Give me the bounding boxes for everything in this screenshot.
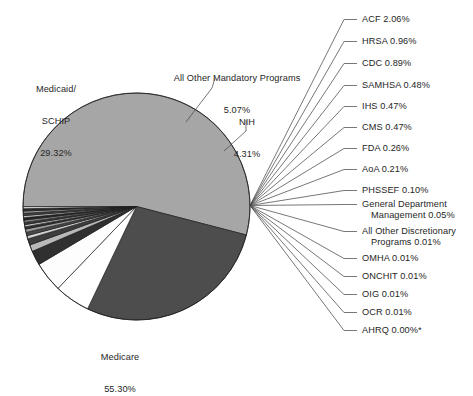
callout-label-acf: ACF 2.06% xyxy=(362,14,473,25)
leader-line-phssef xyxy=(250,191,357,206)
leader-line-all-other-discretionary-programs xyxy=(250,206,357,232)
callout-label-oig: OIG 0.01% xyxy=(362,289,473,300)
slice-label-medicaid-schip: Medicaid/ SCHIP 29.32% xyxy=(8,63,104,180)
callout-label-omha: OMHA 0.01% xyxy=(362,253,473,264)
callout-label-acf-line1: ACF 2.06% xyxy=(362,14,473,25)
callout-label-cms: CMS 0.47% xyxy=(362,122,473,133)
slice-label-nih-line2: 4.31% xyxy=(222,149,272,160)
callout-label-ocr-line1: OCR 0.01% xyxy=(362,307,473,318)
callout-label-phssef: PHSSEF 0.10% xyxy=(362,185,473,196)
callout-label-general-department-management: General DepartmentManagement 0.05% xyxy=(362,199,473,220)
callout-label-all-other-discretionary-programs: All Other DiscretionaryPrograms 0.01% xyxy=(362,226,473,247)
slice-label-medicare-line1: Medicare xyxy=(72,352,168,363)
leader-line-general-department-management xyxy=(250,205,357,206)
slice-label-medicaid-line1: Medicaid/ xyxy=(8,84,104,95)
slice-label-medicare-line2: 55.30% xyxy=(72,384,168,395)
callout-label-aoa: AoA 0.21% xyxy=(362,164,473,175)
callout-label-ihs-line1: IHS 0.47% xyxy=(362,101,473,112)
slice-label-nih: NIH 4.31% xyxy=(222,96,272,181)
callout-label-fda-line1: FDA 0.26% xyxy=(362,143,473,154)
slice-label-all-other-mandatory-line1: All Other Mandatory Programs xyxy=(153,73,321,84)
callout-label-phssef-line1: PHSSEF 0.10% xyxy=(362,185,473,196)
leader-line-ocr xyxy=(250,206,357,313)
callout-label-samhsa-line1: SAMHSA 0.48% xyxy=(362,80,473,91)
callout-label-cms-line1: CMS 0.47% xyxy=(362,122,473,133)
callout-label-ihs: IHS 0.47% xyxy=(362,101,473,112)
callout-label-onchit-line1: ONCHIT 0.01% xyxy=(362,271,473,282)
callout-label-all-other-discretionary-programs-line2: Programs 0.01% xyxy=(362,237,473,248)
callout-label-aoa-line1: AoA 0.21% xyxy=(362,164,473,175)
callout-label-hrsa: HRSA 0.96% xyxy=(362,36,473,47)
callout-label-ocr: OCR 0.01% xyxy=(362,307,473,318)
callout-label-hrsa-line1: HRSA 0.96% xyxy=(362,36,473,47)
leader-line-omha xyxy=(250,206,357,259)
slice-label-medicaid-line2: SCHIP xyxy=(8,116,104,127)
slice-label-nih-line1: NIH xyxy=(222,117,272,128)
callout-label-cdc-line1: CDC 0.89% xyxy=(362,58,473,69)
callout-label-onchit: ONCHIT 0.01% xyxy=(362,271,473,282)
callout-label-omha-line1: OMHA 0.01% xyxy=(362,253,473,264)
callout-label-all-other-discretionary-programs-line1: All Other Discretionary xyxy=(362,226,473,237)
callout-label-ahrq: AHRQ 0.00%* xyxy=(362,325,473,336)
callout-label-fda: FDA 0.26% xyxy=(362,143,473,154)
callout-label-general-department-management-line1: General Department xyxy=(362,199,473,210)
callout-label-cdc: CDC 0.89% xyxy=(362,58,473,69)
slice-label-medicare: Medicare 55.30% xyxy=(72,331,168,396)
leader-line-oig xyxy=(250,206,357,295)
slice-label-medicaid-line3: 29.32% xyxy=(8,148,104,159)
callout-label-oig-line1: OIG 0.01% xyxy=(362,289,473,300)
callout-label-general-department-management-line2: Management 0.05% xyxy=(362,210,473,221)
callout-label-ahrq-line1: AHRQ 0.00%* xyxy=(362,325,473,336)
callout-label-samhsa: SAMHSA 0.48% xyxy=(362,80,473,91)
